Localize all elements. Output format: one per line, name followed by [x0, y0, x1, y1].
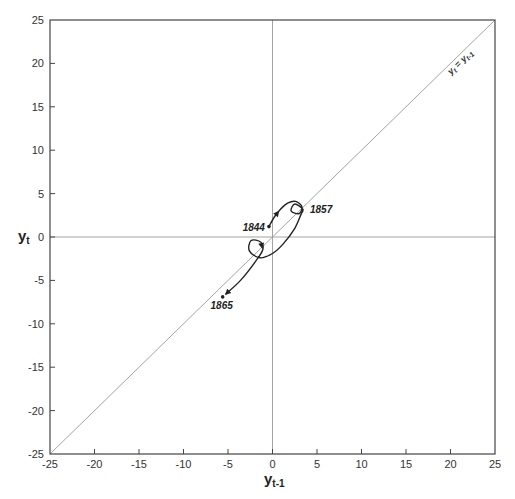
y-tick-label: -10 — [28, 318, 44, 330]
y-tick-label: 15 — [32, 101, 44, 113]
y-tick-label: -5 — [34, 274, 44, 286]
y-tick-label: -20 — [28, 405, 44, 417]
x-tick-label: -20 — [87, 458, 103, 470]
x-tick-label: -5 — [223, 458, 233, 470]
y-tick-label: -15 — [28, 361, 44, 373]
diagonal-label: yt = yt-1 — [445, 48, 476, 78]
phase-plot: -25-20-15-10-50510152025-25-20-15-10-505… — [0, 0, 515, 499]
trajectory — [226, 201, 304, 294]
x-tick-label: 25 — [489, 458, 501, 470]
annotations: 184418571865 — [211, 204, 333, 311]
y-tick-label: 25 — [32, 14, 44, 26]
x-tick-label: -15 — [131, 458, 147, 470]
y-axis-title: yt — [18, 227, 30, 246]
x-tick-label: -10 — [176, 458, 192, 470]
year-label-1844: 1844 — [243, 222, 266, 233]
trajectory-path — [226, 201, 304, 294]
year-label-1865: 1865 — [211, 300, 234, 311]
x-tick-label: 15 — [400, 458, 412, 470]
year-point — [221, 295, 225, 299]
year-point — [267, 225, 271, 229]
direction-arrow-icon — [258, 243, 265, 250]
year-label-1857: 1857 — [310, 204, 333, 215]
x-tick-label: -25 — [42, 458, 58, 470]
x-tick-label: 5 — [314, 458, 320, 470]
y-tick-label: 20 — [32, 57, 44, 69]
y-tick-label: 10 — [32, 144, 44, 156]
x-tick-label: 0 — [269, 458, 275, 470]
y-tick-label: -25 — [28, 448, 44, 460]
y-tick-label: 5 — [38, 188, 44, 200]
x-tick-label: 10 — [355, 458, 367, 470]
y-tick-label: 0 — [38, 231, 44, 243]
x-tick-label: 20 — [444, 458, 456, 470]
reference-lines — [50, 20, 495, 454]
x-axis-title: yt-1 — [264, 470, 285, 489]
axis-ticks: -25-20-15-10-50510152025-25-20-15-10-505… — [28, 14, 501, 470]
